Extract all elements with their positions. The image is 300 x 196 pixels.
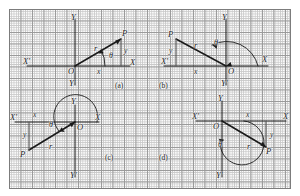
leg-x-label-a: x [97, 68, 100, 76]
angle-label-d: θ [218, 141, 222, 149]
leg-y-label-b: y [169, 47, 172, 55]
axis-label-x-pos-a: X [130, 58, 135, 67]
point-label-c: P [20, 150, 25, 159]
origin-label-b: O [228, 67, 234, 76]
leg-y-label-d: y [270, 131, 273, 139]
panel-c-drawing [9, 91, 150, 189]
axis-label-x-neg-b: X' [161, 57, 168, 66]
panel-b: Y Y' X' X O P x y r θ (b) [150, 9, 291, 91]
point-label-d: P [266, 147, 271, 156]
angle-arc-d [220, 121, 264, 165]
axis-label-y-neg-b: Y' [221, 79, 228, 88]
axis-label-x-neg-d: X' [192, 112, 199, 121]
leg-x-label-b: x [194, 68, 197, 76]
axis-label-y-neg-c: Y' [70, 171, 77, 180]
axis-label-x-pos-b: X [262, 55, 267, 64]
axis-label-y-neg-d: Y' [216, 171, 223, 180]
radius-a [75, 39, 121, 66]
origin-label-d: O [213, 122, 219, 131]
axis-label-y-pos-d: Y [218, 94, 223, 103]
radius-label-d: r [247, 142, 250, 151]
axis-label-y-pos-b: Y [222, 13, 227, 22]
radius-d [222, 121, 266, 147]
panel-caption-a: (a) [115, 82, 123, 90]
axis-label-x-neg-a: X' [23, 57, 30, 66]
origin-label-c: O [77, 123, 83, 132]
figure-canvas: Y Y' X' X O P x y r θ (a) [0, 0, 300, 196]
axis-label-y-pos-c: Y [71, 97, 76, 106]
radius-label-c: r [49, 142, 52, 151]
angle-label-a: θ [109, 52, 113, 60]
panel-a-drawing [9, 9, 150, 91]
axis-label-x-neg-c: X' [10, 113, 17, 122]
axis-label-y-pos-a: Y [71, 13, 76, 22]
panel-a: Y Y' X' X O P x y r θ (a) [9, 9, 150, 91]
panel-caption-c: (c) [105, 154, 113, 162]
radius-b [176, 39, 226, 66]
origin-label-a: O [68, 67, 74, 76]
panel-caption-b: (b) [159, 82, 168, 90]
axis-label-y-neg-a: Y' [69, 79, 76, 88]
point-label-b: P [168, 30, 173, 39]
panel-caption-d: (d) [159, 154, 168, 162]
panel-d: Y Y' X' X O P x y r θ (d) [150, 91, 291, 189]
graph-paper-plate: Y Y' X' X O P x y r θ (a) [9, 9, 291, 189]
panel-c: Y Y' X' X O P x y r θ (c) [9, 91, 150, 189]
leg-y-label-a: y [124, 47, 127, 55]
point-label-a: P [122, 29, 127, 38]
leg-x-label-d: x [246, 111, 249, 119]
leg-y-label-c: y [23, 131, 26, 139]
radius-label-b: r [194, 41, 197, 50]
radius-arrowhead-a [115, 39, 121, 44]
angle-label-b: θ [214, 39, 218, 47]
radius-label-a: r [94, 44, 97, 53]
axis-label-x-pos-c: X [95, 113, 100, 122]
axis-label-x-pos-d: X [283, 112, 288, 121]
angle-label-c: θ [49, 121, 53, 129]
leg-x-label-c: x [33, 111, 36, 119]
